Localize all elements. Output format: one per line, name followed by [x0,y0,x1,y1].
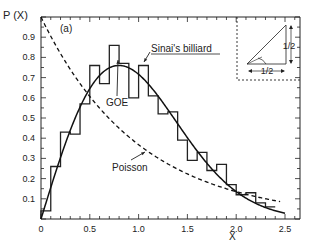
x-tick-label: 0.5 [84,224,97,234]
annotation-poisson: Poisson [112,162,148,173]
x-tick-label: 0 [38,224,43,234]
inset-triangle: 1/21/2 [237,17,300,80]
chart: 00.51.01.52.02.50.10.20.30.40.50.60.70.8… [0,0,318,246]
inset-ray [247,57,262,64]
y-tick-label: 0.4 [22,133,35,143]
inset-arc [258,58,266,64]
y-tick-label: 0.5 [22,113,35,123]
annotation-goe: GOE [106,97,129,108]
labels: P (X) X (a) Sinai's billiard GOE Poisson [3,9,236,242]
goe-curve [41,65,285,219]
y-tick-label: 0.3 [22,153,35,163]
y-axis-label: P (X) [3,9,28,21]
y-tick-label: 0.9 [22,32,35,42]
y-tick-label: 0.7 [22,73,35,83]
x-tick-label: 1.0 [132,224,145,234]
y-tick-label: 0.6 [22,93,35,103]
x-tick-label: 2.5 [279,224,292,234]
inset-label-v: 1/2 [283,41,296,51]
annotation-sinai: Sinai's billiard [151,43,212,54]
y-tick-label: 0.1 [22,194,35,204]
inset-triangle-shape [247,25,286,64]
panel-label: (a) [60,23,72,34]
x-tick-label: 1.5 [181,224,194,234]
inset-label-h: 1/2 [261,66,274,76]
x-axis-label: X [229,231,236,242]
y-tick-label: 0.8 [22,52,35,62]
y-tick-label: 0.2 [22,174,35,184]
